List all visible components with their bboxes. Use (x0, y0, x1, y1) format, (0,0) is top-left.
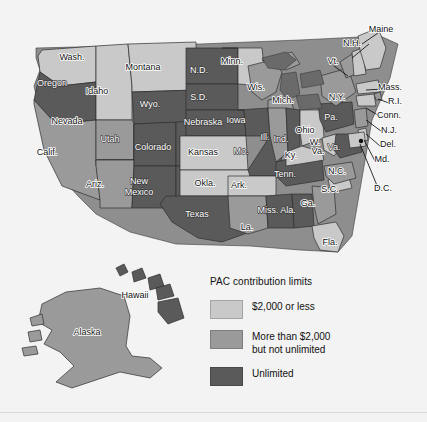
legend-title: PAC contribution limits (210, 276, 410, 287)
state-label-la: La. (241, 222, 254, 232)
state-label-iowa: Iowa (226, 115, 245, 125)
state-label-nebraska: Nebraska (184, 117, 223, 127)
state-label-del: Del. (380, 139, 396, 149)
state-label-ill: Ill. (261, 132, 270, 142)
state-label-ariz: Ariz. (86, 179, 104, 189)
map-legend: PAC contribution limits $2,000 or less M… (210, 276, 410, 397)
state-label-kansas: Kansas (188, 147, 219, 157)
state-alaska-isl1 (30, 314, 44, 326)
state-label-conn: Conn. (377, 110, 401, 120)
state-label-idaho: Idaho (86, 86, 109, 96)
state-label-n-c: N.C. (328, 166, 346, 176)
state-label-r-i: R.I. (388, 96, 402, 106)
state-label-vt: Vt. (327, 56, 338, 66)
state-maryland (348, 132, 366, 148)
legend-item-dark: Unlimited (210, 367, 410, 386)
state-label-mich: Mich. (272, 95, 294, 105)
legend-swatch-dark (210, 367, 243, 386)
legend-swatch-medium (210, 330, 243, 349)
state-label-ind: Ind. (273, 134, 288, 144)
legend-label-medium: More than $2,000 but not unlimited (252, 330, 330, 356)
state-hawaii-oahu (132, 268, 146, 282)
state-label-texas: Texas (185, 209, 209, 219)
state-label-montana: Montana (125, 62, 160, 72)
legend-item-light: $2,000 or less (210, 300, 410, 319)
bottom-divider (0, 412, 427, 413)
state-label-alaska: Alaska (73, 327, 100, 337)
state-label-new: New (130, 176, 149, 186)
legend-swatch-light (210, 300, 243, 319)
state-label-wash: Wash. (59, 52, 84, 62)
state-label-minn: Minn. (221, 56, 243, 66)
state-label-ohio: Ohio (295, 125, 314, 135)
state-label-oregon: Oregon (37, 78, 67, 88)
state-label-d-c: D.C. (374, 183, 392, 193)
state-label-va: Va. (312, 146, 325, 156)
dc-marker-dot (359, 139, 363, 143)
state-label-ky: Ky. (285, 150, 297, 160)
state-label-ala: Ala. (280, 205, 296, 215)
legend-item-medium: More than $2,000 but not unlimited (210, 330, 410, 356)
state-label-utah: Utah (100, 134, 119, 144)
state-alaska-isl2 (28, 330, 42, 342)
state-label-miss: Miss. (258, 205, 279, 215)
state-label-s-d: S.D. (190, 92, 208, 102)
state-connecticut (356, 94, 376, 106)
state-label-calif: Calif. (37, 147, 58, 157)
state-label-n-d: N.D. (190, 65, 208, 75)
state-hawaii-bigisland (158, 298, 184, 324)
legend-label-medium-line2: but not unlimited (252, 344, 330, 357)
state-label-mexico: Mexico (125, 187, 154, 197)
great-lakes-erie (296, 94, 322, 110)
state-label-nevada: Nevada (51, 116, 82, 126)
state-label-n-h: N.H. (343, 38, 361, 48)
state-label-tenn: Tenn. (274, 169, 296, 179)
state-label-n-y: N.Y. (329, 92, 345, 102)
state-label-hawaii: Hawaii (121, 290, 148, 300)
state-label-md: Md. (374, 154, 389, 164)
state-idaho (96, 44, 132, 120)
state-label-wis: Wis. (247, 82, 265, 92)
state-label-ga: Ga. (301, 198, 316, 208)
state-label-mo: Mo. (233, 146, 248, 156)
state-label-n-j: N.J. (381, 125, 397, 135)
state-label-colorado: Colorado (135, 142, 172, 152)
figure-canvas: · · · · · · · · · · · · · · Wash.OregonI… (0, 0, 427, 422)
state-label-okla: Okla. (194, 178, 215, 188)
state-label-s-c: S.C. (321, 184, 339, 194)
legend-label-medium-line1: More than $2,000 (252, 331, 330, 344)
state-newjersey (354, 108, 368, 128)
legend-label-light: $2,000 or less (252, 300, 315, 314)
state-label-pa: Pa. (324, 112, 338, 122)
state-label-maine: Maine (369, 24, 394, 34)
state-label-mass: Mass. (378, 82, 402, 92)
state-alaska (38, 288, 162, 388)
state-label-wyo: Wyo. (140, 99, 160, 109)
legend-label-dark: Unlimited (252, 367, 294, 381)
state-label-fla: Fla. (322, 237, 337, 247)
state-label-ark: Ark. (231, 180, 247, 190)
state-label-va: Va. (328, 142, 341, 152)
state-hawaii-kauai (116, 264, 128, 276)
state-alaska-isl3 (22, 346, 38, 356)
